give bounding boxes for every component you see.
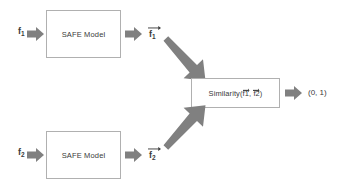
input-label-f2-subscript: 2	[21, 151, 25, 158]
embedding-label-f2-subscript: 2	[152, 154, 156, 161]
arrow-model-to-vecf1	[125, 26, 145, 42]
embedding-label-f1: f1	[149, 28, 156, 39]
arrow-vecf2-to-similarity	[163, 104, 211, 150]
diagram-canvas: f1 SAFE Model f1	[0, 0, 340, 191]
safe-model-label-top: SAFE Model	[62, 30, 106, 39]
similarity-formula: Similarity(f1, f2)	[209, 89, 263, 98]
arrow-model-to-vecf2	[125, 147, 145, 163]
vector-arrow-icon-arg2	[253, 88, 259, 92]
similarity-arg2: f2	[253, 89, 259, 98]
vector-arrow-icon-arg1	[243, 88, 249, 92]
similarity-arg1: f1	[243, 89, 249, 98]
arrow-similarity-to-output	[285, 85, 305, 101]
similarity-suffix: )	[260, 89, 263, 98]
input-label-f1-subscript: 1	[21, 30, 25, 37]
input-label-f2: f2	[18, 147, 25, 157]
safe-model-box-bottom[interactable]: SAFE Model	[46, 131, 121, 179]
output-label: (0, 1)	[308, 88, 327, 97]
safe-model-box-top[interactable]: SAFE Model	[46, 10, 121, 58]
safe-model-label-bottom: SAFE Model	[62, 151, 106, 160]
arrow-f2-to-model	[27, 147, 47, 163]
embedding-label-f1-subscript: 1	[152, 33, 156, 40]
similarity-prefix: Similarity(	[209, 89, 243, 98]
vector-arrow-icon-f1	[148, 25, 161, 30]
embedding-label-f2: f2	[149, 149, 156, 160]
vector-arrow-icon-f2	[148, 146, 161, 151]
arrow-vecf1-to-similarity	[163, 36, 211, 82]
arrow-f1-to-model	[27, 26, 47, 42]
input-label-f1: f1	[18, 26, 25, 36]
